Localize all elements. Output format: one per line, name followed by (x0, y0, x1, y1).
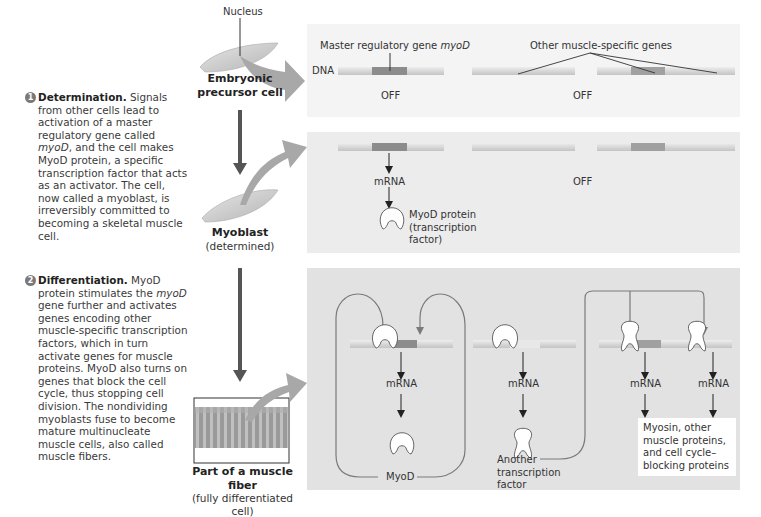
muscle-fiber-image (194, 398, 289, 463)
muscle-products-box: Myosin, othermuscle proteins,and cell cy… (638, 418, 736, 476)
myod-protein-label: MyoD protein(transcriptionfactor) (409, 209, 477, 247)
myoblast-cell-icon (202, 190, 278, 222)
myoblast-label: Myoblast(determined) (190, 226, 290, 252)
off-label-myod: OFF (381, 90, 400, 101)
muscle-fiber-label: Part of a muscle fiber(fully differentia… (180, 465, 305, 517)
off-label-other: OFF (573, 90, 592, 101)
mrna-label-another-tf: mRNA (508, 378, 539, 389)
mrna-label-gene3: mRNA (630, 378, 661, 389)
mrna-label-gene4: mRNA (698, 378, 729, 389)
myod-label: MyoD (386, 471, 414, 482)
dna-strands-panel2 (338, 143, 735, 151)
dna-label: DNA (312, 65, 334, 76)
off-label-panel2: OFF (573, 176, 592, 187)
another-tf-label: Anothertranscriptionfactor (497, 454, 561, 492)
mrna-label-panel2: mRNA (374, 176, 405, 187)
master-gene-label: Master regulatory gene myoD (320, 40, 470, 51)
embryonic-cell-label: Embryonicprecursor cell (190, 72, 290, 99)
mrna-label-myod: mRNA (386, 378, 417, 389)
myod-product-icon (390, 433, 414, 454)
other-genes-label: Other muscle-specific genes (530, 40, 672, 51)
dna-strands-panel3 (350, 340, 732, 348)
myod-protein-icon (380, 208, 404, 229)
embryonic-cell-icon (200, 18, 278, 72)
nucleus-label: Nucleus (223, 6, 263, 17)
feedback-loop-myod (336, 294, 383, 477)
